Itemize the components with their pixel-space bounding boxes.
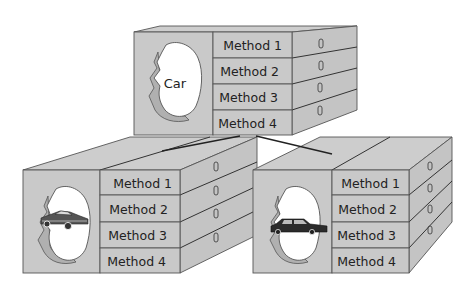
child-box-limousine: Method 1 Method 2 Method 3 Method 4 xyxy=(253,137,452,273)
method-label: Method 2 xyxy=(220,64,279,79)
method-label: Method 3 xyxy=(108,228,167,243)
method-label: Method 2 xyxy=(338,202,397,217)
method-label: Method 3 xyxy=(219,90,278,105)
method-label: Method 2 xyxy=(109,202,168,217)
method-label: Method 3 xyxy=(337,228,396,243)
child-box-sports-car: Method 1 Method 2 Method 3 Method 4 xyxy=(23,137,257,273)
right-box-methods: Method 1 Method 2 Method 3 Method 4 xyxy=(332,170,409,273)
top-box-methods: Method 1 Method 2 Method 3 Method 4 xyxy=(213,32,292,135)
left-box-methods: Method 1 Method 2 Method 3 Method 4 xyxy=(100,170,180,273)
inheritance-diagram: Method 1 Method 2 Method 3 Method 4 xyxy=(0,0,475,290)
parent-box-car: Car Method 1 Method 2 Method 3 Method 4 xyxy=(134,26,357,135)
method-label: Method 1 xyxy=(113,176,172,191)
class-label-car: Car xyxy=(164,76,187,91)
method-label: Method 1 xyxy=(341,176,400,191)
top-box-side-face xyxy=(292,26,357,135)
method-label: Method 4 xyxy=(107,254,166,269)
method-label: Method 4 xyxy=(337,254,396,269)
method-label: Method 4 xyxy=(218,116,277,131)
method-label: Method 1 xyxy=(223,38,282,53)
